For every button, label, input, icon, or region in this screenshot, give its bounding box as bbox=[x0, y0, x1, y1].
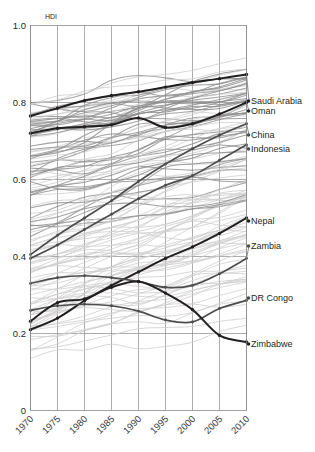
label-endpoint-dot bbox=[247, 99, 251, 103]
series-marker bbox=[56, 301, 59, 304]
series-marker bbox=[137, 197, 140, 200]
series-marker bbox=[191, 245, 194, 248]
series-label-oman: Oman bbox=[251, 106, 276, 116]
series-marker bbox=[110, 123, 113, 126]
series-marker bbox=[110, 199, 113, 202]
label-endpoint-dot bbox=[247, 109, 251, 113]
x-tick-label: 2010 bbox=[229, 413, 252, 436]
y-tick-label: 0.8 bbox=[13, 97, 26, 108]
series-marker bbox=[218, 77, 221, 80]
series-label-indonesia: Indonesia bbox=[251, 144, 290, 154]
series-marker bbox=[83, 297, 86, 300]
series-marker bbox=[110, 94, 113, 97]
series-label-dr-congo: DR Congo bbox=[251, 293, 293, 303]
series-marker bbox=[218, 134, 221, 137]
series-marker bbox=[83, 99, 86, 102]
series-marker bbox=[218, 159, 221, 162]
series-marker bbox=[56, 127, 59, 130]
label-endpoint-dot bbox=[247, 342, 251, 346]
series-marker bbox=[137, 270, 140, 273]
label-endpoint-dot bbox=[247, 219, 251, 223]
series-marker bbox=[137, 280, 140, 283]
y-tick-label: 1.0 bbox=[13, 20, 26, 31]
series-marker bbox=[110, 286, 113, 289]
series-marker bbox=[56, 107, 59, 110]
series-label-zambia: Zambia bbox=[251, 241, 281, 251]
series-marker bbox=[110, 276, 113, 279]
series-marker bbox=[137, 116, 140, 119]
series-marker bbox=[56, 244, 59, 247]
series-marker bbox=[218, 334, 221, 337]
x-tick-label: 1980 bbox=[67, 413, 90, 436]
series-marker bbox=[110, 304, 113, 307]
series-marker bbox=[137, 90, 140, 93]
y-tick-label: 0.6 bbox=[13, 174, 26, 185]
series-marker bbox=[83, 125, 86, 128]
x-tick-label: 2005 bbox=[202, 413, 225, 436]
series-marker bbox=[218, 307, 221, 310]
series-marker bbox=[164, 257, 167, 260]
series-marker bbox=[164, 163, 167, 166]
series-marker bbox=[164, 286, 167, 289]
series-marker bbox=[56, 304, 59, 307]
series-marker bbox=[191, 321, 194, 324]
label-endpoint-dot bbox=[247, 133, 251, 137]
y-tick-label: 0.4 bbox=[13, 251, 26, 262]
x-tick-label: 2000 bbox=[175, 413, 198, 436]
y-axis-ticks: 1.00.80.60.40.20 bbox=[13, 20, 26, 416]
series-marker bbox=[83, 217, 86, 220]
series-marker bbox=[137, 310, 140, 313]
x-tick-label: 1990 bbox=[121, 413, 144, 436]
series-marker bbox=[191, 147, 194, 150]
series-marker bbox=[164, 184, 167, 187]
x-tick-label: 1985 bbox=[94, 413, 117, 436]
x-tick-label: 1975 bbox=[40, 413, 63, 436]
series-marker bbox=[191, 308, 194, 311]
series-marker bbox=[191, 122, 194, 125]
x-axis-ticks: 197019751980198519901995200020052010 bbox=[13, 413, 252, 436]
series-marker bbox=[83, 303, 86, 306]
series-marker bbox=[218, 272, 221, 275]
y-tick-label: 0.2 bbox=[13, 328, 26, 339]
label-endpoint-dot bbox=[247, 147, 251, 151]
hdi-chart-figure: 1.00.80.60.40.20 19701975198019851990199… bbox=[0, 0, 315, 452]
series-marker bbox=[164, 291, 167, 294]
series-marker bbox=[83, 228, 86, 231]
series-marker bbox=[191, 284, 194, 287]
series-marker bbox=[110, 213, 113, 216]
series-label-saudi-arabia: Saudi Arabia bbox=[251, 96, 302, 106]
series-labels: Saudi ArabiaOmanChinaIndonesiaNepalZambi… bbox=[247, 74, 303, 349]
series-marker bbox=[56, 316, 59, 319]
y-axis-title: HDI bbox=[45, 13, 57, 20]
series-marker bbox=[164, 85, 167, 88]
series-marker bbox=[164, 126, 167, 129]
series-marker bbox=[164, 319, 167, 322]
series-marker bbox=[218, 232, 221, 235]
label-endpoint-dot bbox=[247, 244, 251, 248]
series-marker bbox=[83, 274, 86, 277]
series-label-zimbabwe: Zimbabwe bbox=[251, 339, 293, 349]
series-label-china: China bbox=[251, 130, 275, 140]
x-tick-label: 1995 bbox=[148, 413, 171, 436]
series-marker bbox=[56, 276, 59, 279]
label-endpoint-dot bbox=[247, 296, 251, 300]
x-tick-label: 1970 bbox=[13, 413, 36, 436]
series-marker bbox=[218, 112, 221, 115]
series-label-nepal: Nepal bbox=[251, 216, 275, 226]
series-marker bbox=[56, 234, 59, 237]
chart-canvas: 1.00.80.60.40.20 19701975198019851990199… bbox=[0, 0, 315, 452]
series-marker bbox=[191, 81, 194, 84]
series-marker bbox=[191, 174, 194, 177]
series-marker bbox=[137, 180, 140, 183]
